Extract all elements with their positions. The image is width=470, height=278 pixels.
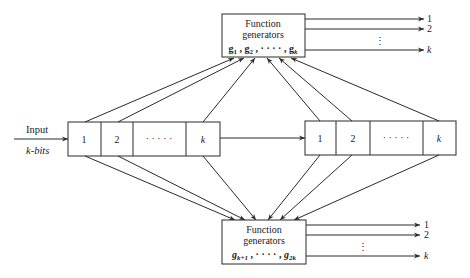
left-register-cell-ellipsis: · · · · ·: [146, 133, 173, 144]
top-generator-input-arrows: [85, 58, 439, 122]
right-register-cell-2: 2: [351, 133, 356, 144]
right-register-cell-1: 1: [318, 133, 323, 144]
bottom-generator-title-line2: generators: [243, 235, 285, 246]
bottom-function-generator: Function generators gk+1 , · · · · , g2k: [222, 220, 306, 264]
left-shift-register: 1 2 · · · · · k: [68, 122, 220, 156]
left-register-cell-2: 2: [115, 134, 120, 145]
top-generator-title-line1: Function: [245, 18, 281, 29]
bottom-output-ellipsis: ⋮: [358, 241, 368, 252]
right-shift-register: 1 2 · · · · · k: [305, 121, 456, 155]
bottom-generator-input-arrows: [85, 155, 439, 220]
bottom-generator-title-line1: Function: [246, 224, 282, 235]
left-register-cell-k: k: [201, 134, 206, 145]
input-label: Input: [26, 124, 48, 135]
top-generator-title-line2: generators: [242, 29, 284, 40]
bottom-output-2: 2: [424, 229, 429, 240]
top-generator-outputs: 1 2 ⋮ k: [305, 13, 432, 55]
bottom-output-k: k: [424, 250, 429, 261]
input-bits-label: k-bits: [26, 145, 49, 156]
shift-register-function-generator-diagram: Input k-bits 1 2 · · · · · k 1 2 · · · ·…: [0, 0, 470, 278]
bottom-generator-outputs: 1 2 ⋮ k: [306, 219, 429, 261]
top-output-2: 2: [427, 23, 432, 34]
top-function-generator: Function generators g1 , g2 , · · · · , …: [222, 14, 305, 57]
top-output-k: k: [427, 44, 432, 55]
top-output-ellipsis: ⋮: [375, 35, 385, 46]
right-register-cell-ellipsis: · · · · ·: [383, 132, 410, 143]
right-register-cell-k: k: [437, 133, 442, 144]
left-register-cell-1: 1: [82, 134, 87, 145]
